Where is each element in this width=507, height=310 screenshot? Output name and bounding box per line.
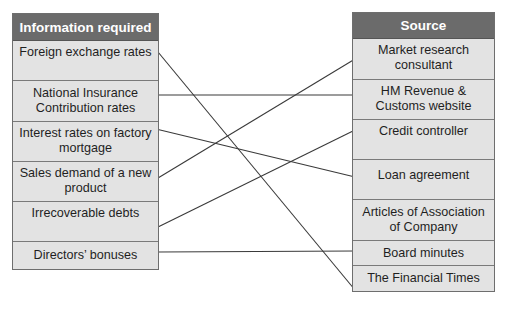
link-irrecoverable-debts-to-credit-controller <box>158 130 355 227</box>
source-row-board-minutes: Board minutes <box>353 241 494 266</box>
source-table: Source Market research consultant HM Rev… <box>352 12 495 292</box>
source-row-financial-times: The Financial Times <box>353 266 494 291</box>
link-sales-demand-to-market-research <box>158 59 355 178</box>
info-row-interest-rates: Interest rates on factory mortgage <box>13 122 158 162</box>
source-row-hmrc: HM Revenue & Customs website <box>353 80 494 120</box>
source-row-articles-of-association: Articles of Association of Company <box>353 200 494 241</box>
info-row-national-insurance: National Insurance Contribution rates <box>13 81 158 122</box>
link-foreign-exchange-to-financial-times <box>158 52 355 290</box>
info-row-sales-demand: Sales demand of a new product <box>13 162 158 202</box>
information-required-header: Information required <box>13 14 158 41</box>
source-row-market-research: Market research consultant <box>353 39 494 80</box>
info-row-irrecoverable-debts: Irrecoverable debts <box>13 202 158 242</box>
information-required-table: Information required Foreign exchange ra… <box>12 13 159 270</box>
source-header: Source <box>353 13 494 39</box>
info-row-foreign-exchange: Foreign exchange rates <box>13 41 158 81</box>
link-directors-bonuses-to-board-minutes <box>158 251 355 252</box>
info-row-directors-bonuses: Directors’ bonuses <box>13 242 158 269</box>
source-row-loan-agreement: Loan agreement <box>353 160 494 200</box>
source-row-credit-controller: Credit controller <box>353 120 494 160</box>
